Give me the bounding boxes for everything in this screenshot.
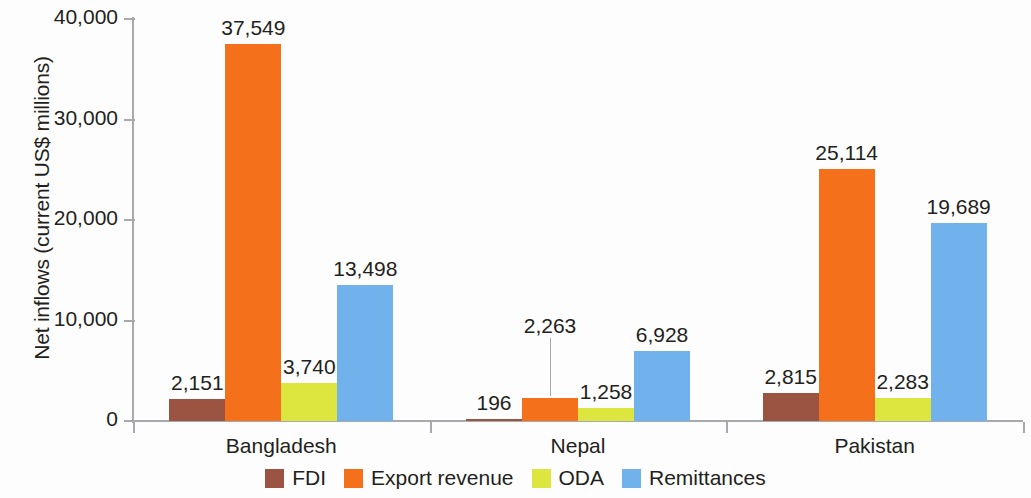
y-axis-tick-label: 30,000 [0, 106, 118, 130]
legend-item[interactable]: Export revenue [344, 466, 513, 490]
bar-value-label: 13,498 [333, 257, 397, 281]
bar-value-label: 6,928 [636, 323, 689, 347]
legend-label: FDI [292, 466, 326, 490]
bar-value-label: 2,283 [876, 370, 929, 394]
bar-value-label: 3,740 [283, 355, 336, 379]
bar-value-label: 1,258 [580, 380, 633, 404]
category-label: Nepal [551, 434, 606, 458]
bar[interactable] [578, 408, 634, 421]
bar[interactable] [931, 223, 987, 421]
bar[interactable] [337, 285, 393, 421]
legend-label: Export revenue [371, 466, 513, 490]
legend-item[interactable]: Remittances [622, 466, 766, 490]
bar-value-label: 19,689 [927, 195, 991, 219]
bar-value-label: 2,815 [764, 365, 817, 389]
x-axis-tick [1023, 422, 1025, 433]
bar-value-label: 2,263 [524, 314, 577, 338]
bar[interactable] [281, 383, 337, 421]
bar[interactable] [466, 419, 522, 421]
bar[interactable] [763, 393, 819, 421]
bar[interactable] [875, 398, 931, 421]
bar[interactable] [169, 399, 225, 421]
chart-legend: FDIExport revenueODARemittances [0, 466, 1031, 490]
bar-value-label: 2,151 [171, 371, 224, 395]
legend-item[interactable]: ODA [532, 466, 605, 490]
category-label: Bangladesh [226, 434, 337, 458]
category-label: Pakistan [834, 434, 915, 458]
bar[interactable] [522, 398, 578, 421]
bar-chart: Net inflows (current US$ millions) 010,0… [0, 0, 1031, 498]
plot-area: 2,1511962,81537,5492,26325,1143,7401,258… [133, 19, 1023, 421]
y-axis-tick-label: 20,000 [0, 206, 118, 230]
value-label-leader-line [550, 338, 551, 396]
bar-value-label: 37,549 [221, 16, 285, 40]
y-axis-tick-label: 10,000 [0, 307, 118, 331]
legend-label: ODA [559, 466, 605, 490]
bar-value-label: 196 [476, 391, 511, 415]
legend-item[interactable]: FDI [265, 466, 326, 490]
y-axis-tick-label: 0 [0, 407, 118, 431]
legend-color-swatch [622, 469, 641, 488]
x-axis-tick [726, 422, 728, 433]
legend-color-swatch [265, 469, 284, 488]
x-axis-tick [133, 422, 135, 433]
bar[interactable] [819, 169, 875, 421]
legend-color-swatch [532, 469, 551, 488]
bar-value-label: 25,114 [815, 141, 878, 165]
legend-label: Remittances [649, 466, 766, 490]
bar[interactable] [225, 44, 281, 421]
bar[interactable] [634, 351, 690, 421]
legend-color-swatch [344, 469, 363, 488]
y-axis-tick-label: 40,000 [0, 5, 118, 29]
x-axis-tick [430, 422, 432, 433]
